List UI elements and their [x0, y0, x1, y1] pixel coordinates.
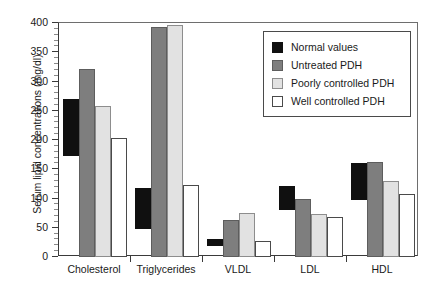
y-axis-tick-label: 400 [8, 17, 48, 27]
bar-ldl-normal [279, 186, 295, 211]
legend-swatch-icon-untreated-pdh [272, 60, 283, 71]
y-axis-tick [52, 256, 58, 257]
legend-swatch-icon-poorly-controlled-pdh [272, 78, 283, 89]
x-axis-tick [346, 256, 347, 262]
x-axis-label-hdl: HDL [346, 263, 418, 276]
x-axis-label-ldl: LDL [274, 263, 346, 276]
bar-cholesterol-untreated [79, 69, 95, 257]
y-axis-tick-label: 250 [8, 105, 48, 115]
bar-ldl-untreated [295, 199, 311, 258]
legend-label: Well controlled PDH [291, 95, 385, 107]
x-axis-tick [202, 256, 203, 262]
legend-swatch-icon-well-controlled-pdh [272, 96, 283, 107]
x-axis-label-vldl: VLDL [202, 263, 274, 276]
x-axis-tick [274, 256, 275, 262]
x-axis-label-cholesterol: Cholesterol [58, 263, 130, 276]
bar-triglycerides-normal [135, 188, 151, 229]
bar-cholesterol-normal [63, 99, 79, 156]
bar-vldl-untreated [223, 220, 239, 257]
legend-label: Poorly controlled PDH [291, 77, 394, 89]
bar-vldl-well [255, 241, 271, 257]
y-axis-tick-label: 100 [8, 193, 48, 203]
bar-ldl-well [327, 217, 343, 257]
bar-vldl-poorly [239, 213, 255, 257]
legend-item-normal-values: Normal values [272, 38, 403, 56]
bar-triglycerides-well [183, 185, 199, 257]
y-axis-tick-label: 300 [8, 76, 48, 86]
y-axis-tick-label: 200 [8, 134, 48, 144]
y-axis-tick-label: 50 [8, 222, 48, 232]
bar-ldl-poorly [311, 214, 327, 257]
legend-label: Untreated PDH [291, 59, 362, 71]
chart-legend: Normal values Untreated PDH Poorly contr… [263, 31, 411, 117]
bar-cholesterol-poorly [95, 106, 111, 257]
bar-hdl-untreated [367, 162, 383, 257]
bar-chart: Serum lipid concentrations (mg/dl) 05010… [0, 0, 431, 290]
y-axis-tick-label: 0 [8, 251, 48, 261]
bar-vldl-normal [207, 239, 223, 246]
bar-hdl-well [399, 194, 415, 257]
bar-cholesterol-well [111, 138, 127, 257]
legend-label: Normal values [291, 41, 358, 53]
y-axis-tick-label: 350 [8, 46, 48, 56]
legend-item-poorly-controlled-pdh: Poorly controlled PDH [272, 74, 403, 92]
legend-item-well-controlled-pdh: Well controlled PDH [272, 92, 403, 110]
bar-hdl-poorly [383, 181, 399, 257]
bar-hdl-normal [351, 163, 367, 200]
x-axis-label-triglycerides: Triglycerides [130, 263, 202, 276]
legend-item-untreated-pdh: Untreated PDH [272, 56, 403, 74]
legend-swatch-icon-normal-values [272, 42, 283, 53]
bar-triglycerides-poorly [167, 25, 183, 257]
y-axis-tick-label: 150 [8, 163, 48, 173]
x-axis-tick [130, 256, 131, 262]
bar-triglycerides-untreated [151, 27, 167, 257]
